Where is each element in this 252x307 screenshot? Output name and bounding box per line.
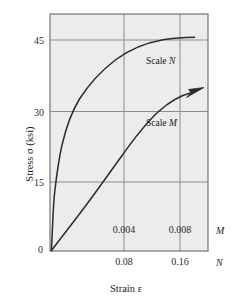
x-axis-row-label-m: M [216,225,224,236]
curve-label-n-prefix: Scale [146,56,169,66]
x-tick-label-m-1: 0.004 [113,224,136,235]
y-axis-title: Stress σ (ksi) [24,126,35,181]
curve-label-m-symbol: M [169,118,177,128]
x-axis-title: Strain ε [0,283,252,294]
x-tick-label-n-1: 0.08 [115,256,133,267]
y-tick-label-45: 45 [14,35,44,46]
y-tick-label-30: 30 [14,106,44,117]
stress-strain-chart: Stress σ (ksi) 45 30 15 0 Scale N Scale … [0,0,252,307]
curve-label-scale-n: Scale N [146,56,175,66]
plot-area-background [50,14,208,251]
x-tick-label-m-2: 0.008 [169,224,192,235]
x-tick-label-n-2: 0.16 [171,256,189,267]
curve-label-n-symbol: N [169,56,175,66]
y-tick-label-15: 15 [14,177,44,188]
curve-label-m-prefix: Scale [146,118,169,128]
x-axis-row-label-n: N [216,257,223,268]
origin-label: 0 [38,244,43,255]
curve-label-scale-m: Scale M [146,118,177,128]
